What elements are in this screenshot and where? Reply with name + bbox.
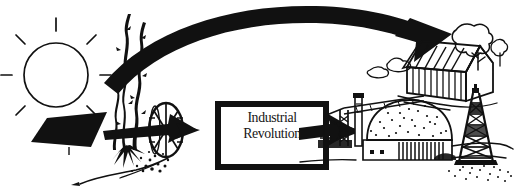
solar-panel-icon xyxy=(31,112,107,155)
diagram-canvas: Industrial Revolution xyxy=(0,0,514,194)
stream-icon xyxy=(71,158,168,186)
smokestack-icon xyxy=(353,93,364,146)
curved-arrow-icon xyxy=(104,6,452,94)
